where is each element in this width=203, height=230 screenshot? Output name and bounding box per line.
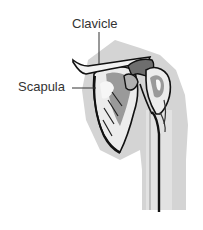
shoulder-illustration <box>0 0 203 230</box>
scapula-label: Scapula <box>18 80 65 93</box>
shoulder-diagram: Clavicle Scapula <box>0 0 203 230</box>
clavicle-label: Clavicle <box>72 17 118 30</box>
